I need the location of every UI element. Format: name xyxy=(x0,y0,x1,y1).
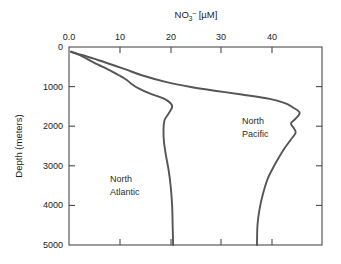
y-tick-label-2000: 2000 xyxy=(43,121,63,131)
x-tick-label-0: 0.0 xyxy=(63,32,76,42)
title-base: NO xyxy=(175,9,189,20)
x-tick-label-30: 30 xyxy=(216,32,226,42)
x-tick-label-40: 40 xyxy=(267,32,277,42)
annotation-north-pacific-line1: North xyxy=(242,116,264,126)
y-axis-title: Depth (meters) xyxy=(13,114,24,177)
annotation-north-pacific-line2: Pacific xyxy=(242,129,269,139)
x-tick-label-20: 20 xyxy=(166,32,176,42)
y-tick-label-1000: 1000 xyxy=(43,82,63,92)
y-tick-label-5000: 5000 xyxy=(43,240,63,250)
y-tick-label-0: 0 xyxy=(58,42,63,52)
title-subscript: 3 xyxy=(189,15,193,22)
y-tick-label-4000: 4000 xyxy=(43,200,63,210)
y-tick-label-3000: 3000 xyxy=(43,161,63,171)
x-tick-label-10: 10 xyxy=(115,32,125,42)
title-units: [µM] xyxy=(196,9,217,20)
annotation-north-atlantic-line1: North xyxy=(110,174,132,184)
chart-title: NO3– [µM] xyxy=(175,9,218,22)
nitrate-depth-profile-chart: NO3– [µM] 0.0 10 20 30 40 0 1000 2000 30… xyxy=(0,0,341,264)
annotation-north-atlantic-line2: Atlantic xyxy=(110,187,140,197)
